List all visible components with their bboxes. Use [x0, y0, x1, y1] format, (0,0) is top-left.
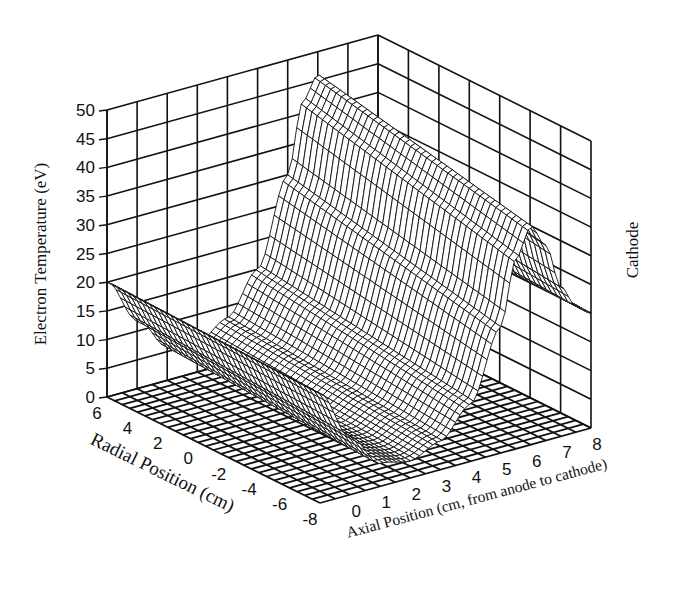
axial-tick-label: 8 [592, 435, 601, 454]
axial-tick-label: 6 [532, 452, 541, 471]
z-tick-mark [99, 167, 107, 168]
z-tick-mark [99, 311, 107, 312]
surface-plot: 051015202530354045506420-2-4-6-801234567… [0, 0, 675, 590]
z-tick-mark [99, 254, 107, 255]
radial-tick-label: 4 [123, 419, 132, 438]
z-tick-label: 20 [76, 273, 95, 292]
axial-tick-label: 0 [351, 502, 360, 521]
radial-tick-label: 2 [153, 434, 162, 453]
axial-tick-label: 4 [472, 468, 481, 487]
z-tick-mark [99, 110, 107, 111]
z-tick-label: 5 [86, 359, 95, 378]
z-tick-label: 10 [76, 331, 95, 350]
z-tick-mark [99, 139, 107, 140]
axial-tick-label: 3 [442, 477, 451, 496]
cathode-annotation: Cathode [623, 222, 642, 279]
radial-tick-label: -2 [211, 465, 226, 484]
z-tick-label: 45 [76, 130, 95, 149]
z-axis-label: Electron Temperature (eV) [31, 163, 50, 346]
radial-tick-label: 0 [184, 449, 193, 468]
z-tick-mark [99, 196, 107, 197]
z-tick-label: 40 [76, 158, 95, 177]
axial-tick-label: 2 [412, 485, 421, 504]
z-tick-label: 50 [76, 101, 95, 120]
radial-tick-label: -6 [272, 495, 287, 514]
axial-tick-label: 1 [381, 493, 390, 512]
z-tick-label: 35 [76, 187, 95, 206]
z-tick-mark [99, 397, 107, 398]
wall-gridline [378, 35, 591, 141]
z-tick-label: 15 [76, 302, 95, 321]
z-tick-mark [99, 225, 107, 226]
radial-tick-label: 6 [92, 404, 101, 423]
z-tick-mark [99, 282, 107, 283]
axial-tick-label: 7 [562, 443, 571, 462]
z-tick-mark [99, 340, 107, 341]
z-tick-label: 25 [76, 245, 95, 264]
z-tick-label: 30 [76, 216, 95, 235]
radial-tick-label: -4 [242, 480, 257, 499]
z-tick-mark [99, 368, 107, 369]
radial-tick-label: -8 [302, 510, 317, 529]
axial-tick-label: 5 [502, 460, 511, 479]
